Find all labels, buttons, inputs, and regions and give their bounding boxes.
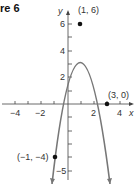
x-tick-label: 2 (91, 108, 96, 118)
y-tick-label: 4 (60, 46, 65, 56)
y-tick-label: 6 (60, 19, 65, 29)
root-point (105, 102, 110, 107)
low-point-label: (−1, −4) (17, 152, 49, 162)
x-ticks (15, 101, 120, 104)
x-tick-label: −2 (35, 108, 45, 118)
y-tick-label: −5 (56, 166, 66, 176)
y-tick-label: 2 (60, 72, 65, 82)
x-axis-label: x (128, 108, 134, 118)
y-axis-arrow-icon (66, 10, 70, 15)
curve-arrow-right-icon (107, 178, 112, 184)
vertex-point (78, 22, 83, 27)
curve-arrow-left-icon (50, 178, 55, 184)
x-axis-arrow-icon (129, 102, 134, 106)
root-label: (3, 0) (108, 90, 129, 100)
low-point (53, 155, 58, 160)
x-tick-label: 4 (117, 108, 122, 118)
y-axis-label: y (57, 6, 63, 16)
parabola-chart: −4 −2 2 4 x 2 4 6 −5 y (1, 6) (3, 0) (−1… (0, 0, 137, 184)
x-tick-label: −4 (10, 108, 20, 118)
vertex-label: (1, 6) (78, 5, 99, 15)
y-ticks (68, 24, 72, 171)
